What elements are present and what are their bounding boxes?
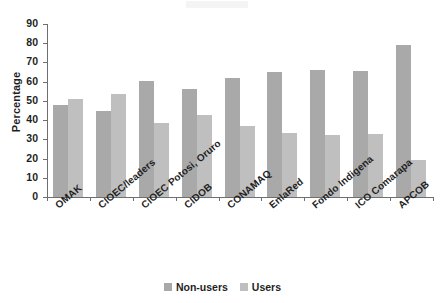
y-tick-10: 10 bbox=[3, 178, 47, 179]
y-tick-50: 50 bbox=[3, 101, 47, 102]
y-tick-40: 40 bbox=[3, 120, 47, 121]
plot-area: 9080706050403020100 bbox=[47, 24, 433, 197]
bar-group bbox=[304, 24, 347, 197]
bar-non-users bbox=[225, 78, 240, 197]
x-tick-mark bbox=[47, 197, 48, 201]
y-tick-label: 30 bbox=[26, 132, 38, 144]
y-tick-label: 60 bbox=[26, 75, 38, 87]
bar-non-users bbox=[53, 105, 68, 197]
bar-non-users bbox=[96, 111, 111, 198]
legend-swatch-icon bbox=[240, 283, 248, 291]
y-tick-label: 50 bbox=[26, 94, 38, 106]
x-tick-mark bbox=[261, 197, 262, 201]
x-tick-mark bbox=[347, 197, 348, 201]
legend-swatch-icon bbox=[164, 283, 172, 291]
y-tick-90: 90 bbox=[3, 24, 47, 25]
y-tick-label: 90 bbox=[26, 17, 38, 29]
bar-non-users bbox=[310, 70, 325, 197]
y-tick-20: 20 bbox=[3, 159, 47, 160]
x-tick-mark bbox=[390, 197, 391, 201]
y-tick-label: 0 bbox=[32, 190, 38, 202]
y-tick-label: 70 bbox=[26, 55, 38, 67]
y-axis-title: Percentage bbox=[10, 42, 22, 162]
y-tick-label: 10 bbox=[26, 171, 38, 183]
bar-non-users bbox=[139, 81, 154, 197]
y-tick-label: 80 bbox=[26, 36, 38, 48]
y-tick-0: 0 bbox=[3, 197, 47, 198]
y-tick-label: 20 bbox=[26, 152, 38, 164]
x-tick-mark-end bbox=[433, 197, 434, 201]
chart-legend: Non-usersUsers bbox=[0, 281, 445, 293]
bar-group bbox=[90, 24, 133, 197]
legend-item-users[interactable]: Users bbox=[240, 281, 281, 293]
x-tick-mark bbox=[90, 197, 91, 201]
bar-chart: Percentage 9080706050403020100 OMAKCIOEC… bbox=[0, 0, 445, 303]
y-tick-label: 40 bbox=[26, 113, 38, 125]
bar-group bbox=[47, 24, 90, 197]
x-tick-mark bbox=[219, 197, 220, 201]
cropped-title-artifact bbox=[186, 1, 248, 8]
y-tick-70: 70 bbox=[3, 62, 47, 63]
legend-label: Non-users bbox=[176, 281, 228, 293]
x-tick-mark bbox=[304, 197, 305, 201]
y-tick-60: 60 bbox=[3, 82, 47, 83]
y-tick-30: 30 bbox=[3, 139, 47, 140]
x-tick-mark bbox=[133, 197, 134, 201]
bar-non-users bbox=[182, 89, 197, 197]
x-tick-mark bbox=[176, 197, 177, 201]
legend-item-non-users[interactable]: Non-users bbox=[164, 281, 228, 293]
legend-label: Users bbox=[252, 281, 281, 293]
bar-group bbox=[219, 24, 262, 197]
y-tick-80: 80 bbox=[3, 43, 47, 44]
